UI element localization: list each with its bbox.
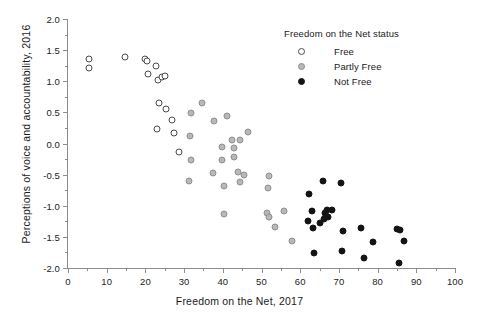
y-axis-title: Perceptions of voice and accountability,…: [20, 4, 32, 264]
y-tick-minor: [65, 128, 68, 129]
legend-entry[interactable]: Free: [284, 44, 464, 59]
x-tick-label: 10: [101, 276, 112, 287]
y-tick-minor: [65, 159, 68, 160]
data-point: [187, 133, 194, 140]
data-point: [219, 144, 226, 151]
y-tick-minor: [65, 252, 68, 253]
legend-entries: FreePartly FreeNot Free: [284, 44, 464, 89]
data-point: [241, 171, 248, 178]
y-tick-minor: [65, 97, 68, 98]
data-point: [220, 182, 227, 189]
legend-entry[interactable]: Not Free: [284, 74, 464, 89]
x-tick-label: 80: [372, 276, 383, 287]
x-tick-minor: [165, 268, 166, 271]
data-point: [338, 180, 345, 187]
y-tick-label: -1.5: [43, 231, 60, 242]
data-point: [400, 237, 407, 244]
legend-marker-icon: [284, 78, 318, 85]
y-tick-label: 0.0: [46, 138, 60, 149]
x-tick-label: 20: [140, 276, 151, 287]
x-tick: [416, 268, 417, 273]
data-point: [309, 224, 316, 231]
data-point: [188, 109, 195, 116]
y-tick: [63, 175, 68, 176]
data-point: [339, 227, 346, 234]
y-tick-label: 1.5: [46, 45, 60, 56]
legend-entry-label: Partly Free: [334, 61, 382, 72]
data-point: [319, 177, 326, 184]
x-tick: [262, 268, 263, 273]
x-tick-label: 30: [179, 276, 190, 287]
data-point: [397, 227, 404, 234]
data-point: [162, 105, 169, 112]
data-point: [169, 116, 176, 123]
x-tick: [378, 268, 379, 273]
data-point: [224, 113, 231, 120]
legend-entry[interactable]: Partly Free: [284, 59, 464, 74]
x-tick-label: 0: [65, 276, 70, 287]
data-point: [185, 177, 192, 184]
y-tick-minor: [65, 66, 68, 67]
x-tick-label: 50: [256, 276, 267, 287]
data-point: [305, 190, 312, 197]
data-point: [229, 136, 236, 143]
legend-entry-label: Not Free: [334, 76, 372, 87]
data-point: [264, 185, 271, 192]
data-point: [236, 136, 243, 143]
data-point: [145, 70, 152, 77]
data-point: [219, 157, 226, 164]
data-point: [85, 56, 92, 63]
x-tick-minor: [281, 268, 282, 271]
data-point: [361, 255, 368, 262]
x-tick-label: 60: [295, 276, 306, 287]
data-point: [170, 129, 177, 136]
scatter-chart-figure: 2.01.51.00.50.0-0.5-1.0-1.5-2.0 01020304…: [0, 0, 479, 317]
y-tick-label: 2.0: [46, 14, 60, 25]
y-tick: [63, 50, 68, 51]
data-point: [329, 207, 336, 214]
x-tick: [68, 268, 69, 273]
data-point: [316, 219, 323, 226]
x-tick-minor: [87, 268, 88, 271]
x-tick-label: 90: [411, 276, 422, 287]
data-point: [220, 211, 227, 218]
x-tick: [300, 268, 301, 273]
y-tick-label: -2.0: [43, 263, 60, 274]
y-tick: [63, 237, 68, 238]
data-point: [280, 207, 287, 214]
x-tick-minor: [397, 268, 398, 271]
data-point: [211, 118, 218, 125]
data-point: [266, 173, 273, 180]
y-tick: [63, 112, 68, 113]
y-tick-minor: [65, 221, 68, 222]
data-point: [210, 169, 217, 176]
x-tick-minor: [126, 268, 127, 271]
legend: Freedom on the Net status FreePartly Fre…: [284, 28, 464, 89]
data-point: [121, 53, 128, 60]
x-tick: [339, 268, 340, 273]
y-tick-label: -1.0: [43, 200, 60, 211]
x-tick-label: 40: [217, 276, 228, 287]
legend-marker-icon: [284, 48, 318, 55]
y-tick-minor: [65, 35, 68, 36]
data-point: [339, 248, 346, 255]
data-point: [85, 64, 92, 71]
x-tick-minor: [242, 268, 243, 271]
x-tick: [455, 268, 456, 273]
legend-title: Freedom on the Net status: [284, 28, 464, 39]
data-point: [245, 129, 252, 136]
y-tick: [63, 206, 68, 207]
x-tick-minor: [320, 268, 321, 271]
data-point: [308, 208, 315, 215]
data-point: [288, 238, 295, 245]
data-point: [198, 100, 205, 107]
data-point: [358, 224, 365, 231]
y-tick-label: 0.5: [46, 107, 60, 118]
data-point: [188, 157, 195, 164]
x-tick-minor: [358, 268, 359, 271]
x-tick: [107, 268, 108, 273]
x-tick: [184, 268, 185, 273]
legend-marker-icon: [284, 63, 318, 70]
data-point: [154, 125, 161, 132]
x-tick: [223, 268, 224, 273]
